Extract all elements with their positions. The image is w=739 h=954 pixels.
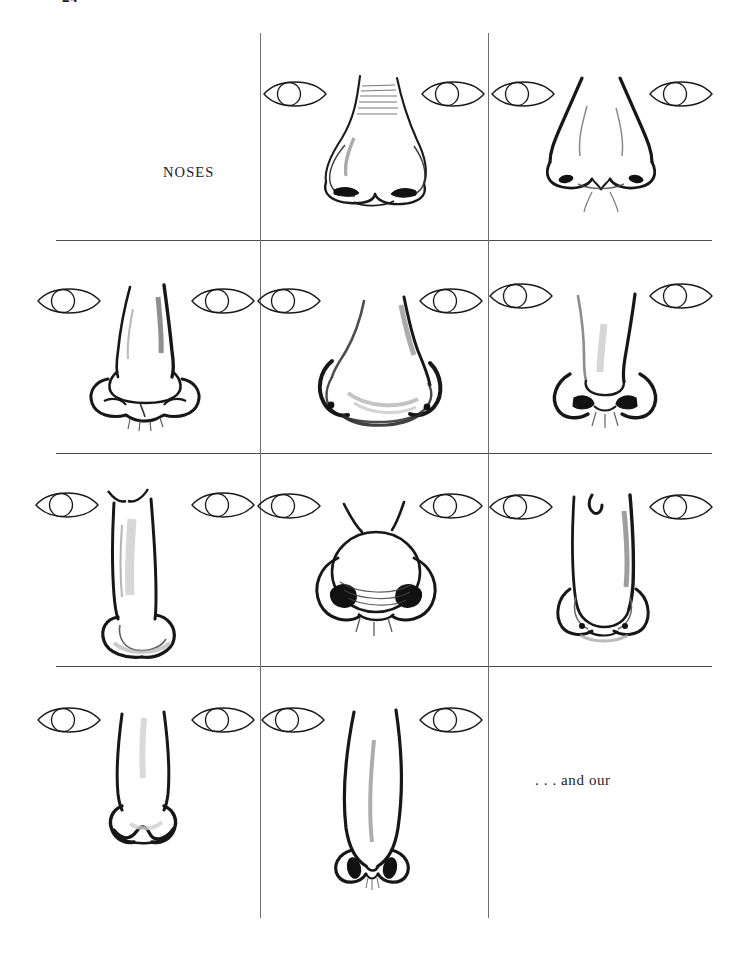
eye-icon xyxy=(650,82,712,106)
eye-icon xyxy=(650,495,712,519)
section-label-noses: NOSES xyxy=(163,164,214,181)
nose-cell-r3c1 xyxy=(34,485,258,653)
eye-icon xyxy=(420,708,482,732)
eye-icon xyxy=(38,289,100,313)
eye-icon xyxy=(262,708,324,732)
eye-icon xyxy=(420,289,482,313)
eye-icon xyxy=(192,708,254,732)
nose-cell-r3c2 xyxy=(262,488,488,648)
eye-icon xyxy=(36,493,98,517)
nose-cell-r1c2 xyxy=(262,66,488,211)
eye-icon xyxy=(422,82,484,106)
tail-text: . . . and our xyxy=(535,772,611,789)
horizontal-rule-1 xyxy=(56,240,712,241)
eye-icon xyxy=(258,289,320,313)
nose-cell-r2c2 xyxy=(262,283,488,438)
vertical-rule-1 xyxy=(260,33,261,918)
vertical-rule-2 xyxy=(488,33,489,918)
nose-cell-r4c1 xyxy=(34,700,258,850)
nose-cell-r2c1 xyxy=(34,275,258,437)
eye-icon xyxy=(38,708,100,732)
eye-icon xyxy=(650,284,712,308)
eye-icon xyxy=(420,494,482,518)
nose-cell-r3c3 xyxy=(492,485,716,653)
page-number: 24 xyxy=(62,0,78,4)
eye-icon xyxy=(490,284,552,308)
eye-icon xyxy=(490,495,552,519)
eye-icon xyxy=(258,494,320,518)
nose-cell-r4c2 xyxy=(262,700,488,890)
nose-cell-r1c3 xyxy=(492,66,714,206)
eye-icon xyxy=(492,82,554,106)
horizontal-rule-3 xyxy=(56,666,712,667)
horizontal-rule-2 xyxy=(56,453,712,454)
eye-icon xyxy=(192,493,254,517)
eye-icon xyxy=(192,289,254,313)
eye-icon xyxy=(264,82,326,106)
illustration-page: 24 NOSES . . . and our xyxy=(0,0,739,954)
nose-cell-r2c3 xyxy=(492,274,716,439)
